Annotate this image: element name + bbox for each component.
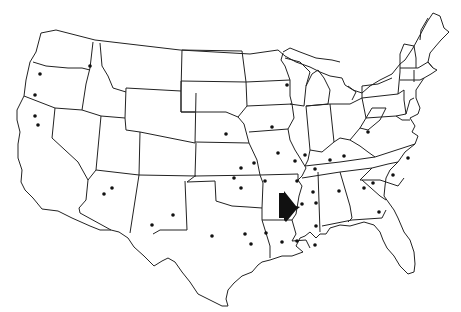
marker-dot <box>33 114 37 118</box>
marker-dot <box>280 240 284 244</box>
marker-dot <box>328 158 332 162</box>
marker-dot <box>239 166 243 170</box>
marker-dot <box>239 186 243 190</box>
marker-dot <box>243 232 247 236</box>
marker-dot <box>33 93 37 97</box>
marker-dot <box>88 64 92 68</box>
marker-dot <box>295 179 299 183</box>
marker-dot <box>342 154 346 158</box>
marker-dot <box>295 239 299 243</box>
marker-dot <box>337 189 341 193</box>
marker-dot <box>391 173 395 177</box>
marker-dot <box>150 223 154 227</box>
us-outline <box>17 13 449 306</box>
marker-dot <box>311 190 315 194</box>
marker-dot <box>264 231 268 235</box>
us-map-canvas <box>0 0 461 312</box>
marker-dot <box>314 224 318 228</box>
marker-dot <box>300 202 304 206</box>
marker-dot <box>270 125 274 129</box>
marker-dot <box>276 151 280 155</box>
marker-dot <box>224 132 228 136</box>
marker-dot <box>232 176 236 180</box>
marker-dot <box>313 243 317 247</box>
marker-dot <box>110 186 114 190</box>
marker-dot <box>102 192 106 196</box>
marker-dot <box>38 72 42 76</box>
marker-dot <box>171 213 175 217</box>
marker-dot <box>36 123 40 127</box>
marker-dot <box>313 167 317 171</box>
marker-dot <box>293 159 297 163</box>
us-map <box>0 0 461 312</box>
marker-dot <box>252 161 256 165</box>
marker-dot <box>249 242 253 246</box>
marker-dot <box>263 179 267 183</box>
marker-dot <box>303 153 307 157</box>
marker-dot <box>362 186 366 190</box>
marker-dot <box>371 181 375 185</box>
marker-dot <box>314 201 318 205</box>
marker-dot <box>406 156 410 160</box>
marker-dot <box>285 83 289 87</box>
marker-dot <box>210 234 214 238</box>
marker-dot <box>366 130 370 134</box>
marker-dot <box>377 210 381 214</box>
